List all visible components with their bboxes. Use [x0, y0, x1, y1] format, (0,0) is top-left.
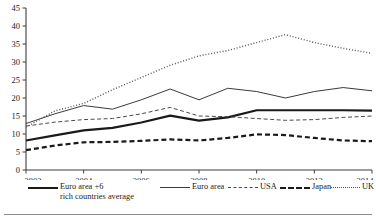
y-tick-label: 10 — [12, 129, 21, 139]
chart-figure: 051015202530354045 200220042006200820102… — [0, 0, 376, 218]
y-tick-label: 15 — [12, 111, 21, 121]
legend-swatch-thick-dashed-line-icon — [280, 183, 310, 192]
y-tick-label: 35 — [12, 39, 21, 49]
legend-item-usa[interactable]: USA — [228, 182, 277, 192]
chart-legend: Euro area +6 rich countries average Euro… — [0, 180, 376, 208]
data-series-group — [26, 35, 372, 151]
y-tick-label: 30 — [12, 57, 21, 67]
legend-label-usa: USA — [258, 182, 277, 192]
legend-swatch-thick-solid-line-icon — [28, 183, 58, 192]
y-axis-tick-labels: 051015202530354045 — [12, 3, 21, 175]
line-chart-plot: 051015202530354045 200220042006200820102… — [0, 0, 376, 180]
footer-divider — [4, 214, 372, 215]
y-tick-label: 25 — [12, 75, 21, 85]
legend-swatch-dotted-line-icon — [330, 183, 360, 192]
legend-label-euro-area-plus-6: Euro area +6 — [60, 182, 103, 191]
y-tick-label: 20 — [12, 93, 21, 103]
legend-label-euro-area: Euro area — [190, 182, 224, 192]
legend-swatch-thin-dashed-line-icon — [228, 183, 258, 192]
series-line-euro-area — [26, 88, 372, 124]
series-line-euro-area-6-rich-countries-average — [26, 110, 372, 140]
legend-label-japan: Japan — [310, 182, 331, 192]
legend-item-japan[interactable]: Japan — [280, 182, 331, 192]
y-tick-label: 40 — [12, 21, 21, 31]
legend-item-uk[interactable]: UK — [330, 182, 374, 192]
series-line-uk — [26, 35, 372, 128]
legend-item-euro-area[interactable]: Euro area — [160, 182, 224, 192]
y-tick-label: 45 — [12, 3, 21, 13]
y-tick-label: 0 — [16, 165, 20, 175]
legend-item-euro-area-plus-6[interactable]: Euro area +6 rich countries average — [28, 182, 134, 202]
legend-swatch-thin-solid-line-icon — [160, 183, 190, 192]
legend-label-euro-area-plus-6-line2: rich countries average — [60, 192, 134, 202]
legend-label-uk: UK — [360, 182, 374, 192]
series-line-japan — [26, 134, 372, 150]
y-tick-label: 5 — [16, 147, 20, 157]
